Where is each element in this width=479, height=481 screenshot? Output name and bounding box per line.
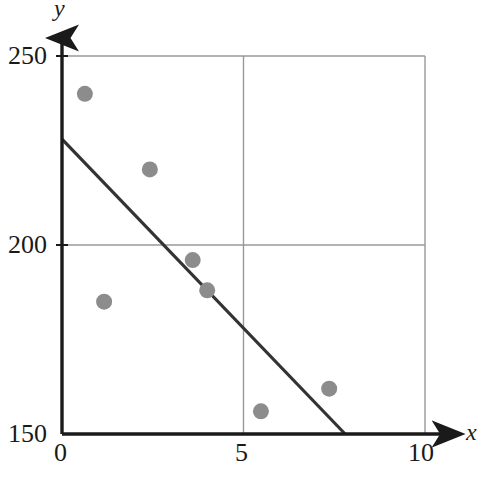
y-tick-label-250: 250 [8,43,47,69]
data-point [77,86,93,102]
scatter-plot-figure: 250 200 150 0 5 10 y x [0,0,479,481]
x-tick-label-10: 10 [408,440,434,466]
gridlines [62,56,425,434]
data-point [96,294,112,310]
x-tick-label-5: 5 [235,440,248,466]
data-points [77,86,337,420]
data-point [253,403,269,419]
y-axis-title: y [54,0,65,20]
data-point [185,252,201,268]
axes [56,38,452,434]
y-tick-label-150: 150 [8,421,47,447]
data-point [199,282,215,298]
x-tick-label-0: 0 [54,440,67,466]
y-tick-label-200: 200 [8,232,47,258]
data-point [321,381,337,397]
data-point [142,161,158,177]
x-axis-title: x [466,420,477,444]
plot-area [0,0,479,481]
